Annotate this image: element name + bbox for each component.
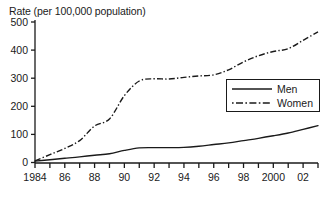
legend-line-dashdot-icon: [231, 98, 273, 108]
legend-entry-men: Men: [231, 82, 297, 96]
y-tick-label: 300: [0, 72, 28, 84]
x-axis-ticks: [35, 163, 318, 168]
y-tick-label: 200: [0, 100, 28, 112]
series-line-men: [35, 126, 318, 161]
chart-legend: Men Women: [226, 79, 320, 112]
legend-line-solid-icon: [231, 84, 273, 94]
y-tick-label: 100: [0, 128, 28, 140]
y-tick-label: 500: [0, 16, 28, 28]
x-tick-label: 02: [283, 171, 323, 183]
legend-label-men: Men: [277, 84, 297, 95]
legend-entry-women: Women: [231, 96, 313, 110]
y-tick-label: 0: [0, 156, 28, 168]
y-tick-label: 400: [0, 44, 28, 56]
legend-label-women: Women: [277, 98, 313, 109]
chart-figure: Rate (per 100,000 population) 0100200300…: [0, 0, 327, 197]
